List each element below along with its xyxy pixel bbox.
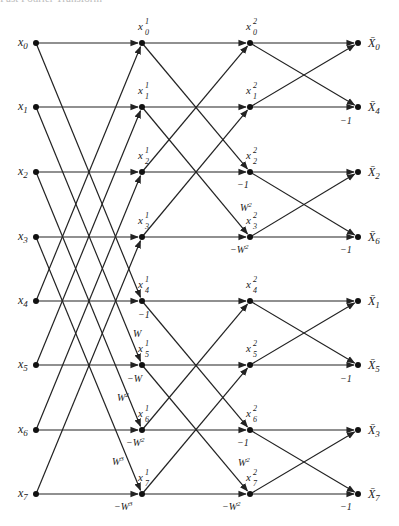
stage1-label-sup: 1 — [145, 146, 149, 155]
stage1-label-sub: 1 — [145, 92, 149, 101]
twiddle-label: W2 — [238, 456, 250, 468]
flow-node — [247, 362, 253, 368]
output-label: X̄3 — [367, 423, 380, 439]
flow-node — [355, 362, 361, 368]
stage2-label-sup: 2 — [253, 146, 257, 155]
stage1-edge — [36, 107, 140, 361]
flow-node — [139, 40, 145, 46]
stage2-label-sub: 1 — [253, 92, 257, 101]
stage2-edge — [142, 365, 247, 491]
stage1-label-sup: 1 — [145, 339, 149, 348]
stage3-edge — [250, 430, 355, 492]
stage1-edge — [36, 111, 140, 365]
stage2-label: x — [245, 342, 251, 354]
twiddle-label: −1 — [237, 437, 249, 448]
input-label: x5 — [17, 357, 28, 373]
stage1-label: x — [137, 149, 143, 161]
stage1-label-sub: 3 — [144, 222, 149, 231]
flow-node — [33, 104, 39, 110]
fft-butterfly-diagram: x0x1x2x3x4x5x6x7x10x11x12x13x14x15x16x17… — [0, 0, 399, 526]
stage3-edge — [250, 172, 355, 235]
input-label: x0 — [17, 35, 28, 51]
flow-node — [139, 234, 145, 240]
stage3-edge — [250, 45, 355, 107]
input-label: x3 — [17, 229, 28, 245]
stage1-edge — [36, 47, 140, 301]
stage1-label-sub: 7 — [145, 479, 150, 488]
stage3-edge — [250, 174, 355, 237]
stage3-edge — [250, 303, 355, 365]
output-label: X̄0 — [367, 36, 380, 52]
stage2-label: x — [245, 407, 251, 419]
output-label: X̄1 — [367, 294, 380, 310]
stage2-label-sub: 5 — [253, 350, 257, 359]
twiddle-label: −1 — [340, 501, 352, 512]
stage2-label-sub: 6 — [253, 415, 257, 424]
twiddle-label: −W2 — [230, 243, 249, 255]
stage1-edge — [36, 43, 140, 297]
stage2-label: x — [245, 214, 251, 226]
flow-node — [139, 427, 145, 433]
stage2-label-sub: 4 — [253, 286, 257, 295]
output-label: X̄5 — [367, 358, 380, 374]
stage1-label-sup: 1 — [145, 275, 149, 284]
flow-node — [355, 234, 361, 240]
stage2-label-sup: 2 — [253, 275, 257, 284]
output-label: X̄2 — [367, 165, 380, 181]
twiddle-label: −1 — [237, 179, 249, 190]
flow-node — [247, 491, 253, 497]
stage1-label: x — [137, 20, 143, 32]
stage3-edge — [250, 432, 355, 494]
twiddle-label: W2 — [117, 391, 129, 403]
input-label: x2 — [17, 164, 28, 180]
flow-node — [33, 169, 39, 175]
stage1-label-sup: 1 — [145, 404, 149, 413]
stage2-label: x — [245, 20, 251, 32]
stage1-label: x — [137, 84, 143, 96]
stage3-edge — [250, 301, 355, 363]
flow-node — [247, 427, 253, 433]
output-label: X̄7 — [367, 487, 380, 503]
flow-node — [139, 298, 145, 304]
stage2-label: x — [245, 471, 251, 483]
flow-node — [247, 298, 253, 304]
flow-node — [33, 491, 39, 497]
flow-node — [247, 169, 253, 175]
stage1-label: x — [137, 214, 143, 226]
twiddle-label: W3 — [112, 455, 124, 467]
stage1-label-sub: 6 — [145, 415, 149, 424]
twiddle-label: W — [133, 328, 143, 339]
twiddle-label: W2 — [240, 201, 252, 213]
stage2-label: x — [245, 84, 251, 96]
stage1-label-sub: 2 — [145, 157, 149, 166]
flow-node — [139, 169, 145, 175]
stage2-edge — [142, 107, 247, 234]
stage2-edge — [142, 304, 247, 430]
stage2-edge — [142, 301, 247, 427]
stage2-label-sup: 2 — [253, 17, 257, 26]
flow-node — [33, 40, 39, 46]
flow-node — [355, 104, 361, 110]
flow-node — [139, 362, 145, 368]
stage2-edge — [142, 110, 247, 237]
twiddle-label: −1 — [340, 115, 352, 126]
stage1-label: x — [137, 407, 143, 419]
stage2-label-sup: 2 — [253, 404, 257, 413]
input-label: x6 — [17, 422, 28, 438]
twiddle-label: −W — [127, 373, 144, 384]
stage2-label: x — [245, 149, 251, 161]
stage1-label: x — [137, 342, 143, 354]
flow-node — [33, 298, 39, 304]
stage1-label: x — [137, 471, 143, 483]
twiddle-label: −1 — [340, 373, 352, 384]
stage2-label-sup: 2 — [253, 81, 257, 90]
twiddle-label: −W2 — [222, 500, 241, 512]
input-label: x1 — [17, 99, 28, 115]
stage3-edge — [250, 43, 355, 105]
flow-node — [33, 234, 39, 240]
stage2-label-sup: 2 — [253, 339, 257, 348]
twiddle-label: −1 — [138, 309, 150, 320]
flow-node — [355, 298, 361, 304]
input-label: x7 — [17, 486, 28, 502]
flow-node — [247, 234, 253, 240]
